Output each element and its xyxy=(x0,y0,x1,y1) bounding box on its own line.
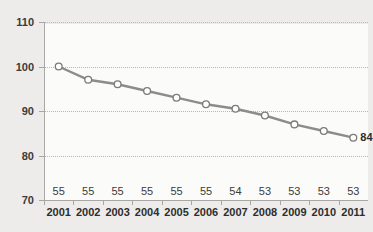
x-tick-mark-2009 xyxy=(280,200,281,205)
data-point-2007 xyxy=(232,105,239,112)
x-tick-mark-2007 xyxy=(221,200,222,205)
data-point-2004 xyxy=(144,88,151,95)
x-tick-mark-2003 xyxy=(103,200,104,205)
x-tick-mark-2006 xyxy=(191,200,192,205)
data-point-2001 xyxy=(55,63,62,70)
data-point-2002 xyxy=(85,76,92,83)
endpoint-data-label: 84 xyxy=(360,131,372,143)
secondary-value-2011: 53 xyxy=(333,185,373,197)
x-tick-mark-2004 xyxy=(132,200,133,205)
x-tick-label-2011: 2011 xyxy=(333,206,373,218)
x-tick-mark-2002 xyxy=(73,200,74,205)
x-tick-mark-2008 xyxy=(250,200,251,205)
data-point-2011 xyxy=(350,134,357,141)
data-point-2010 xyxy=(320,128,327,135)
data-point-2008 xyxy=(262,112,269,119)
x-tick-mark-2001 xyxy=(44,200,45,205)
data-point-2003 xyxy=(114,81,121,88)
data-point-2009 xyxy=(291,121,298,128)
x-tick-mark-2010 xyxy=(309,200,310,205)
x-tick-mark-2005 xyxy=(162,200,163,205)
data-point-2006 xyxy=(203,101,210,108)
data-point-2005 xyxy=(173,94,180,101)
x-tick-mark-2011 xyxy=(339,200,340,205)
